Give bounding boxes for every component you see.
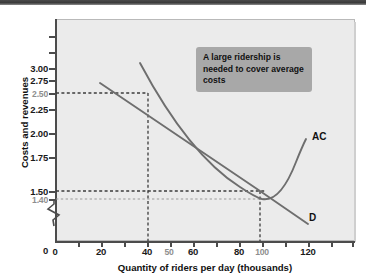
y-tick-225	[49, 109, 56, 111]
demand-curve-D	[100, 83, 308, 224]
y-tick-300	[49, 68, 56, 70]
y-tick-250	[49, 93, 56, 95]
x-tick-label-60: 60	[176, 246, 210, 257]
x-tick-80	[216, 241, 218, 247]
x-tick-label-120: 120	[291, 246, 325, 257]
chart-figure: 3.00 2.75 2.50 2.25 2.00 1.75 1.50 1.40 …	[0, 5, 366, 278]
annotation-callout: A large ridership is needed to cover ave…	[196, 47, 312, 92]
curve-label-D: D	[309, 212, 316, 223]
y-axis-title: Costs and revenues	[19, 48, 30, 198]
y-tick-minor	[49, 52, 56, 54]
x-tick-label-20: 20	[84, 246, 118, 257]
y-tick-140	[49, 199, 56, 201]
curve-label-AC: AC	[312, 131, 326, 142]
y-tick-275	[49, 80, 56, 82]
y-tick-minor	[49, 36, 56, 38]
x-axis-title: Quantity of riders per day (thousands)	[55, 262, 355, 273]
reference-lines	[56, 93, 270, 241]
x-tick-label-0: 0	[38, 246, 72, 257]
x-tick-minor	[78, 241, 80, 247]
y-tick-175	[49, 157, 56, 159]
x-tick-minor	[285, 241, 287, 247]
x-tick-minor	[352, 241, 354, 247]
x-tick-label-100: 100	[245, 247, 279, 257]
x-tick-minor	[124, 241, 126, 247]
y-tick-150	[49, 191, 56, 193]
y-tick-200	[49, 133, 56, 135]
annotation-text: A large ridership is needed to cover ave…	[203, 52, 305, 87]
x-tick-minor	[331, 241, 333, 247]
